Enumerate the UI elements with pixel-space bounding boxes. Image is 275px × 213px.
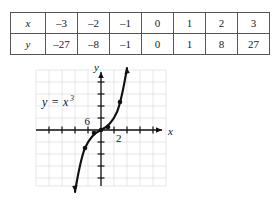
equation-exponent: 3: [69, 94, 74, 103]
y-axis-label: y: [93, 62, 99, 73]
data-point: [99, 128, 104, 133]
equation-equals: =: [51, 95, 59, 109]
x-tick-label-2: 2: [116, 132, 122, 144]
data-point: [118, 100, 123, 105]
graph-svg: y x 6 2 y = x 3: [34, 62, 184, 210]
x-axis-label: x: [167, 125, 173, 137]
value-table: x –3 –2 –1 0 1 2 3 y –27 –8 –1 0 1 8 27: [10, 12, 270, 55]
equation-base: x: [62, 95, 69, 109]
cell-x-2: –1: [110, 13, 142, 34]
cell-y-3: 0: [142, 34, 174, 55]
cell-y-5: 8: [206, 34, 238, 55]
cell-y-6: 27: [238, 34, 270, 55]
cell-y-2: –1: [110, 34, 142, 55]
data-point: [92, 131, 97, 136]
cell-x-5: 2: [206, 13, 238, 34]
row-header-y: y: [11, 34, 46, 55]
cubic-function-graph: y x 6 2 y = x 3: [34, 62, 184, 210]
data-point: [106, 125, 111, 130]
cell-y-4: 1: [174, 34, 206, 55]
cell-x-3: 0: [142, 13, 174, 34]
table-row-y: y –27 –8 –1 0 1 8 27: [11, 34, 270, 55]
y-tick-label-6: 6: [85, 115, 91, 127]
data-point: [83, 146, 88, 151]
cell-x-6: 3: [238, 13, 270, 34]
cell-y-0: –27: [46, 34, 78, 55]
cell-y-1: –8: [78, 34, 110, 55]
equation-label: y = x 3: [41, 94, 74, 109]
table-row-x: x –3 –2 –1 0 1 2 3: [11, 13, 270, 34]
cell-x-0: –3: [46, 13, 78, 34]
cell-x-4: 1: [174, 13, 206, 34]
cell-x-1: –2: [78, 13, 110, 34]
row-header-x: x: [11, 13, 46, 34]
equation-lhs: y: [41, 95, 48, 109]
